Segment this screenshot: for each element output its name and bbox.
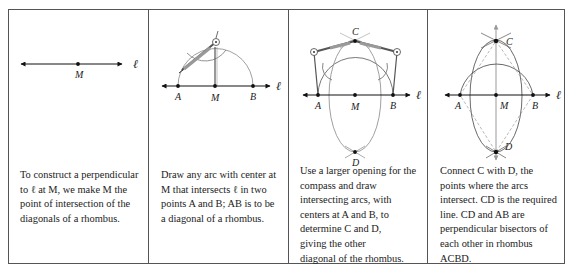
caption-line: compass and draw	[300, 179, 425, 194]
label-line: ℓ	[133, 57, 138, 71]
caption-line: points where the arcs	[440, 179, 565, 194]
point-a	[316, 93, 320, 97]
panel-3-caption: Use a larger opening for the compass and…	[300, 164, 425, 266]
panel-4-caption: Connect C with D, the points where the a…	[440, 164, 565, 266]
caption-line: determine C and D,	[300, 222, 425, 237]
caption-line: diagonal of the rhombus.	[300, 252, 425, 267]
caption-line: M that intersects ℓ in two	[161, 183, 286, 198]
panel-1-caption: To construct a perpendicular to ℓ at M, …	[20, 168, 145, 226]
caption-line: intersecting arcs, with	[300, 193, 425, 208]
panel-1-figure: M ℓ	[21, 57, 138, 80]
point-m	[213, 84, 217, 88]
caption-line: each other in rhombus	[440, 237, 565, 252]
point-a	[176, 84, 180, 88]
label-a: A	[454, 100, 462, 111]
label-a: A	[174, 91, 182, 102]
point-b	[531, 93, 535, 97]
point-m	[76, 62, 80, 66]
label-a: A	[314, 100, 322, 111]
caption-line: a diagonal of a rhombus.	[161, 212, 286, 227]
point-c	[353, 39, 357, 43]
caption-line: To construct a perpendicular	[20, 168, 145, 183]
label-m: M	[74, 69, 84, 80]
label-d: D	[504, 141, 513, 152]
label-c: C	[352, 26, 359, 37]
caption-line: ACBD.	[440, 252, 565, 267]
point-d	[353, 150, 357, 154]
caption-line: line. CD and AB are	[440, 208, 565, 223]
point-c	[494, 39, 498, 43]
label-b: B	[532, 100, 538, 111]
caption-line: giving the other	[300, 237, 425, 252]
caption-line: Use a larger opening for the	[300, 164, 425, 179]
label-m: M	[350, 101, 360, 112]
label-line: ℓ	[276, 79, 281, 93]
caption-line: intersect. CD is the required	[440, 193, 565, 208]
panel-3-figure: A M B C D ℓ	[303, 26, 421, 168]
compass-icon	[179, 31, 226, 86]
panel-2-figure: A M B ℓ	[162, 31, 281, 103]
point-a	[458, 93, 462, 97]
caption-line: points A and B; AB is to be	[161, 197, 286, 212]
label-c: C	[506, 36, 513, 47]
caption-line: Draw any arc with center at	[161, 168, 286, 183]
point-m	[353, 93, 357, 97]
label-m: M	[210, 92, 220, 103]
caption-line: diagonals of a rhombus.	[20, 212, 145, 227]
label-line: ℓ	[416, 88, 421, 102]
point-m	[494, 93, 498, 97]
point-b	[391, 93, 395, 97]
panel-2-caption: Draw any arc with center at M that inter…	[161, 168, 286, 226]
panel-4-figure: A M B C D ℓ	[445, 25, 561, 160]
caption-line: Connect C with D, the	[440, 164, 565, 179]
label-b: B	[250, 91, 256, 102]
label-m: M	[499, 100, 509, 111]
point-b	[251, 84, 255, 88]
caption-line: centers at A and B, to	[300, 208, 425, 223]
caption-line: to ℓ at M, we make M the	[20, 183, 145, 198]
point-d	[494, 150, 498, 154]
caption-line: perpendicular bisectors of	[440, 222, 565, 237]
label-b: B	[390, 100, 396, 111]
label-line: ℓ	[556, 88, 561, 102]
caption-line: point of intersection of the	[20, 197, 145, 212]
